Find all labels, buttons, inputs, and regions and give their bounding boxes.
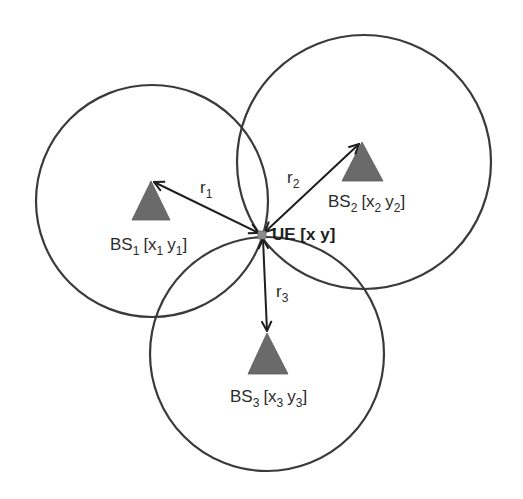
r1-subscript: 1: [206, 187, 213, 201]
bs2-label: BS2[x2y2]: [328, 192, 405, 215]
bs3-label: BS3[x3y3]: [230, 387, 307, 410]
bs3-close-bracket: ]: [302, 387, 307, 406]
bs1-prefix: BS: [110, 235, 133, 254]
trilateration-diagram: r1 r2 r3 BS1[x1y1] BS2[x2y2] BS3[x3y3] U…: [0, 0, 523, 499]
ue-label: UE [x y]: [272, 225, 335, 244]
bs1-x-sub: 1: [157, 244, 164, 258]
bs2-prefix: BS: [328, 192, 351, 211]
ue-location-marker: [258, 231, 266, 239]
r2-subscript: 2: [293, 177, 300, 191]
bs3-prefix: BS: [230, 387, 253, 406]
bs2-x-sub: 2: [375, 201, 382, 215]
bs2-close-bracket: ]: [400, 192, 405, 211]
r1-label: r1: [200, 178, 213, 201]
bs3-index: 3: [253, 396, 260, 410]
r2-label: r2: [287, 168, 300, 191]
r3-range-arrow: [263, 239, 267, 331]
r2-range-arrow: [265, 144, 359, 232]
bs1-close-bracket: ]: [182, 235, 187, 254]
bs3-x-sub: 3: [277, 396, 284, 410]
bs3-tower-icon: [248, 333, 288, 374]
bs1-index: 1: [133, 244, 140, 258]
r3-label: r3: [276, 282, 289, 305]
r3-subscript: 3: [282, 291, 289, 305]
bs2-tower-icon: [342, 142, 383, 181]
bs2-index: 2: [351, 201, 358, 215]
bs1-label: BS1[x1y1]: [110, 235, 187, 258]
